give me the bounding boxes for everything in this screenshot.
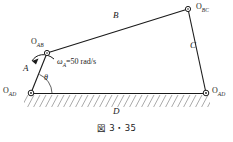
link-label-d: D [113, 107, 120, 116]
link-label-a: A [23, 64, 29, 73]
link-label-c: C [190, 41, 196, 50]
joint-label-o-bc-sub: BC [202, 7, 209, 13]
joint-label-o-ad-sub: AD [9, 91, 16, 97]
figure-container: OAB OBC OAD OAD A B C D θ ωA=50 rad/s 図 … [0, 0, 233, 142]
joint-label-o-ad: OAD [3, 87, 16, 97]
joint-label-o-cd-sub: AD [218, 91, 225, 97]
joint-pin-o-ad [28, 90, 34, 96]
link-label-b: B [113, 11, 119, 20]
link-c-line [188, 9, 206, 93]
joint-label-o-bc: OBC [196, 3, 209, 13]
joint-pin-o-ab [44, 50, 49, 55]
joint-label-o-ab-sub: AB [37, 42, 44, 48]
joint-pin-o-cd [203, 90, 209, 96]
joint-label-o-ab: OAB [31, 38, 44, 48]
joint-label-o-cd: OAD [212, 87, 225, 97]
joint-pin-o-bc [185, 6, 190, 11]
omega-value: =50 rad/s [66, 57, 96, 66]
figure-caption: 図 3・35 [0, 121, 233, 133]
angular-velocity-label: ωA=50 rad/s [57, 58, 96, 68]
theta-angle-label: θ [44, 74, 48, 82]
